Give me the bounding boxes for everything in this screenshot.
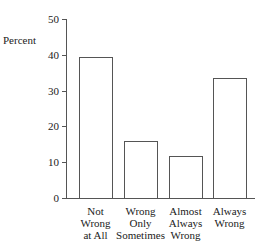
y-tick-label: 10 [39, 157, 59, 168]
y-tick-label: 0 [39, 193, 59, 204]
y-tick-label: 20 [39, 121, 59, 132]
y-tick-label: 30 [39, 86, 59, 97]
bar-0 [80, 58, 113, 199]
bar-3 [214, 79, 247, 199]
y-tick-label: 50 [39, 14, 59, 25]
bar-chart: Percent 01020304050 NotWrongat AllWrongO… [0, 0, 268, 251]
y-tick-label: 40 [39, 50, 59, 61]
bar-2 [170, 157, 203, 199]
bar-1 [125, 142, 158, 199]
x-tick-label: AlwaysWrong [200, 205, 260, 229]
y-axis-label: Percent [3, 34, 36, 46]
